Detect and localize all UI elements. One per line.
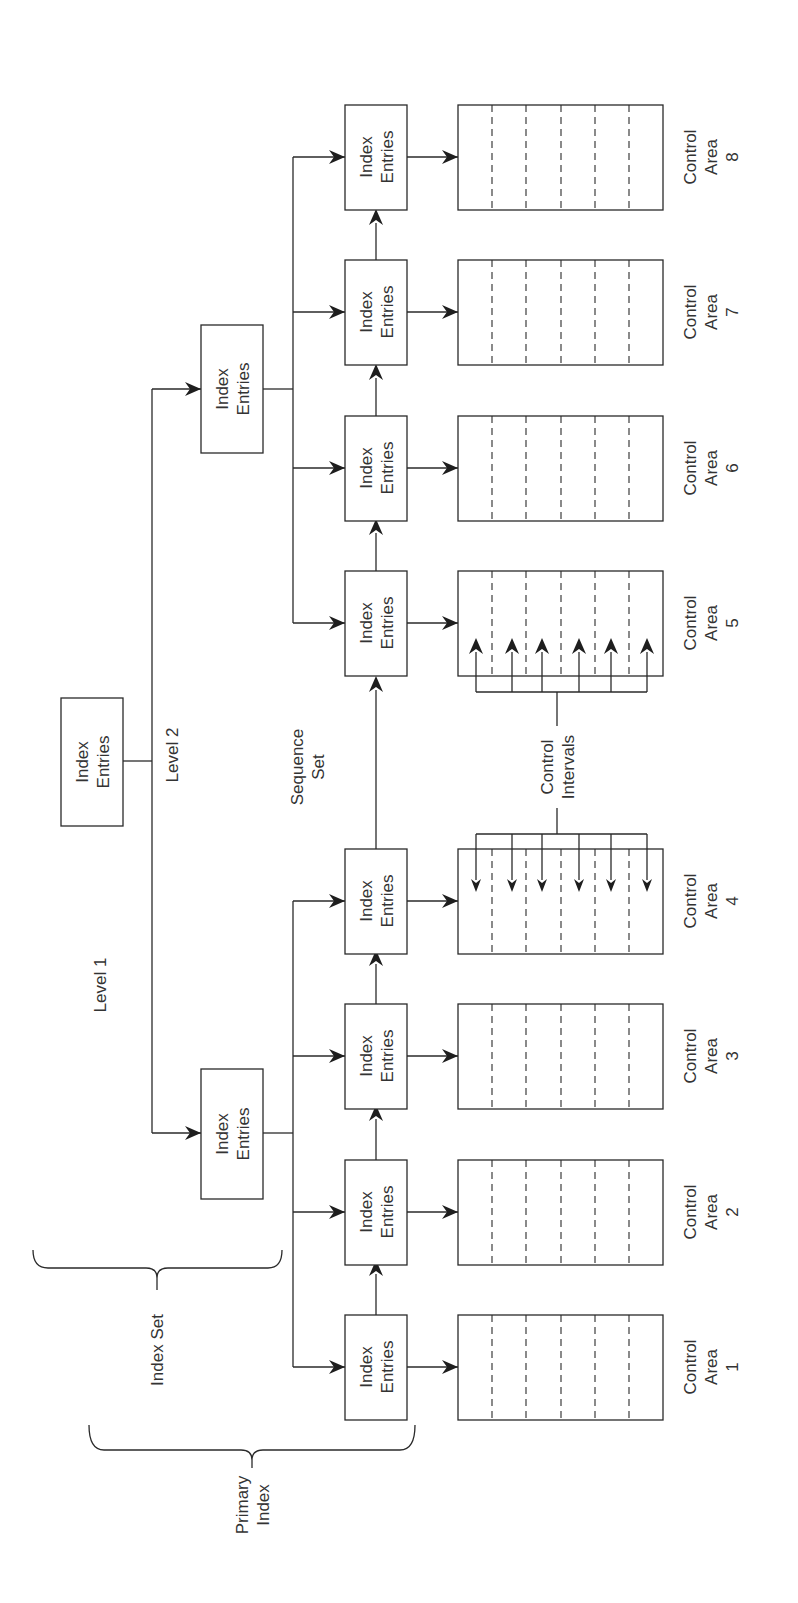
sequence-row-1: IndexEntriesControlArea1 (293, 1315, 742, 1420)
arrow-up-icon (369, 364, 383, 380)
control-area-label-line1: Control (681, 441, 700, 496)
box-label-line2: Entries (378, 1030, 397, 1083)
box-label-line2: Entries (378, 286, 397, 339)
box-label-line2: Entries (378, 1186, 397, 1239)
box-label-line1: Index (73, 741, 92, 783)
control-area-number: 5 (723, 618, 742, 627)
box-label-line1: Index (213, 368, 232, 410)
sequence-set-index-box (345, 1315, 407, 1420)
control-area-label-line1: Control (681, 1029, 700, 1084)
sequence-set-index-box (345, 849, 407, 954)
level1-index-box-upper (201, 325, 263, 453)
control-area-number: 1 (723, 1362, 742, 1371)
control-area-label-line2: Area (702, 294, 721, 330)
sequence-row-8: IndexEntriesControlArea8 (293, 105, 742, 210)
level1-label: Level 1 (91, 958, 110, 1013)
sequence-row-2: IndexEntriesControlArea2 (293, 1160, 742, 1265)
sequence-row-3: IndexEntriesControlArea3 (293, 1004, 742, 1109)
level1-index-box-lower (201, 1069, 263, 1199)
control-area-number: 4 (723, 896, 742, 905)
control-area-label-line2: Area (702, 139, 721, 175)
index-set-label: Index Set (148, 1314, 167, 1386)
sequence-set-rows: IndexEntriesControlArea1IndexEntriesCont… (293, 105, 742, 1420)
arrow-up-icon (369, 676, 383, 692)
control-area-label-line1: Control (681, 1340, 700, 1395)
control-area-label-line2: Area (702, 1349, 721, 1385)
box-label-line2: Entries (234, 1108, 253, 1161)
control-area-label-line2: Area (702, 1194, 721, 1230)
control-area-label-line1: Control (681, 874, 700, 929)
sequence-set-index-box (345, 416, 407, 521)
control-area-number: 3 (723, 1051, 742, 1060)
control-area-number: 2 (723, 1207, 742, 1216)
box-label-line2: Entries (234, 363, 253, 416)
sequence-chain (369, 209, 383, 1315)
control-area-number: 6 (723, 463, 742, 472)
control-area-label-line1: Control (681, 285, 700, 340)
level2-label: Level 2 (163, 728, 182, 783)
box-label-line1: Index (357, 1191, 376, 1233)
box-label-line1: Index (357, 1346, 376, 1388)
sequence-set-label: Sequence Set (288, 729, 328, 806)
sequence-row-6: IndexEntriesControlArea6 (293, 416, 742, 521)
sequence-set-index-box (345, 105, 407, 210)
level2-index-box (61, 698, 123, 826)
primary-index-brace: Primary Index (89, 1425, 415, 1534)
box-label-line1: Index (357, 1035, 376, 1077)
sequence-set-index-box (345, 1004, 407, 1109)
box-label-line2: Entries (378, 875, 397, 928)
control-area-number: 7 (723, 307, 742, 316)
control-area-label-line1: Control (681, 1185, 700, 1240)
sequence-set-index-box (345, 260, 407, 365)
box-label-line1: Index (213, 1113, 232, 1155)
box-label-line1: Index (357, 602, 376, 644)
brace-icon (33, 1250, 282, 1278)
label-line2: Set (309, 754, 328, 780)
sequence-row-5: IndexEntriesControlArea5 (293, 571, 742, 676)
sequence-row-4: IndexEntriesControlArea4 (293, 849, 742, 954)
level2-group: Index Entries Level 2 (61, 382, 201, 1140)
control-area-label-line1: Control (681, 130, 700, 185)
control-area-label-line2: Area (702, 883, 721, 919)
box-label-line2: Entries (378, 131, 397, 184)
box-label-line1: Index (357, 136, 376, 178)
control-area-label-line2: Area (702, 1038, 721, 1074)
box-label-line2: Entries (378, 1341, 397, 1394)
box-label-line2: Entries (378, 597, 397, 650)
primary-index-label-line1: Primary (233, 1475, 252, 1534)
control-intervals-label-line1: Control (538, 740, 557, 795)
primary-index-label-line2: Index (254, 1484, 273, 1526)
sequence-row-7: IndexEntriesControlArea7 (293, 260, 742, 365)
box-label-line2: Entries (378, 442, 397, 495)
box-label-line1: Index (357, 880, 376, 922)
box-label-line2: Entries (94, 736, 113, 789)
label-line1: Sequence (288, 729, 307, 806)
sequence-set-index-box (345, 571, 407, 676)
vsam-index-diagram: Index Entries Level 2 Level 1 Index Entr… (0, 0, 798, 1603)
arrow-up-icon (369, 209, 383, 225)
sequence-set-index-box (345, 1160, 407, 1265)
control-area-label-line2: Area (702, 605, 721, 641)
box-label-line1: Index (357, 447, 376, 489)
box-label-line1: Index (357, 291, 376, 333)
brace-icon (89, 1425, 415, 1460)
control-area-label-line1: Control (681, 596, 700, 651)
index-set-brace: Index Set (33, 1250, 282, 1386)
control-intervals-label-line2: Intervals (559, 735, 578, 799)
control-area-label-line2: Area (702, 450, 721, 486)
control-area-number: 8 (723, 152, 742, 161)
